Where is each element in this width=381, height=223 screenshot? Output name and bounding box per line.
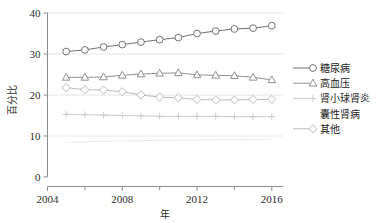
legend-label: 糖尿病 [320,62,350,74]
marker-circle [100,44,107,51]
marker-circle [138,39,145,46]
marker-circle [119,41,126,48]
x-tick-label: 2008 [111,193,134,205]
line-chart: 010203040 2004200820122016 百分比 年 糖尿病高血压肾… [0,0,381,223]
y-tick-label: 40 [30,7,42,19]
marker-circle [63,48,70,55]
chart-container: 010203040 2004200820122016 百分比 年 糖尿病高血压肾… [0,0,381,223]
marker-circle [268,22,275,29]
legend-label: 高血压 [320,77,350,89]
marker-circle [212,28,219,35]
x-tick-label: 2012 [186,193,208,205]
marker-circle [194,30,201,37]
marker-circle [231,26,238,33]
y-tick-label: 0 [35,171,41,183]
marker-circle [175,34,182,41]
marker-circle [81,47,88,54]
marker-circle [310,65,317,72]
y-tick-label: 20 [30,89,42,101]
legend-item-4[interactable]: 囊性肾病 [320,108,360,120]
legend-label: 肾小球肾炎 [320,92,370,104]
marker-circle [250,25,257,32]
legend-label: 囊性肾病 [320,108,360,120]
marker-circle [156,36,163,43]
y-axis-title: 百分比 [7,85,18,115]
x-tick-label: 2016 [261,193,284,205]
y-tick-label: 30 [30,48,42,60]
x-tick-label: 2004 [37,193,60,205]
y-tick-label: 10 [30,130,42,142]
legend-label: 其他 [320,123,340,135]
x-axis-title: 年 [160,208,170,220]
